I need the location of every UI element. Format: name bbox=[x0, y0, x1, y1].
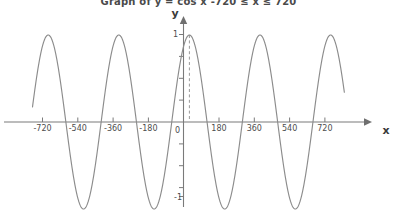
x-tick-label: 540 bbox=[282, 124, 297, 133]
plot-area: -720 -540 -360 -180 0 180 360 540 720 1 … bbox=[0, 0, 397, 214]
x-tick-label: -540 bbox=[69, 124, 87, 133]
y-tick-labels-group: 1 -1 bbox=[173, 30, 182, 202]
y-tick-label-one: 1 bbox=[173, 30, 178, 39]
x-axis-label: x bbox=[382, 124, 389, 137]
x-axis-arrowhead bbox=[364, 118, 372, 125]
x-tick-label: 720 bbox=[317, 124, 332, 133]
x-tick-label: 180 bbox=[211, 124, 226, 133]
x-tick-label: -180 bbox=[139, 124, 157, 133]
axes-group bbox=[4, 16, 372, 207]
y-tick-label-negative-one: -1 bbox=[174, 193, 182, 202]
x-tick-label: -360 bbox=[104, 124, 122, 133]
x-tick-label: 360 bbox=[247, 124, 262, 133]
y-axis-label: y bbox=[171, 7, 178, 20]
cosine-graph-figure: Graph of y = cos x -720 ≤ x ≤ 720 bbox=[0, 0, 397, 214]
y-axis-arrowhead bbox=[180, 16, 187, 24]
x-tick-label-origin: 0 bbox=[175, 126, 180, 135]
x-tick-label: -720 bbox=[33, 124, 51, 133]
